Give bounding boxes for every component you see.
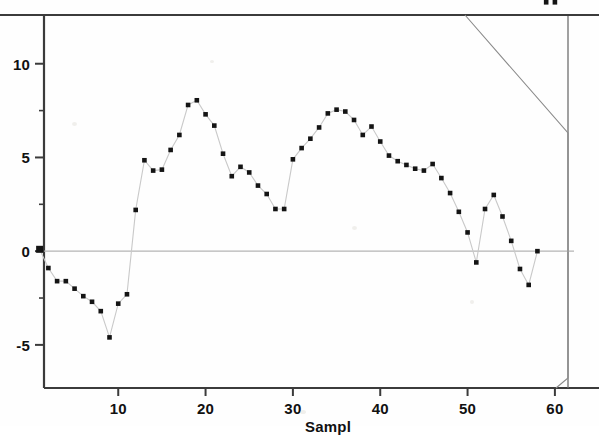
y-tick-label: -5: [0, 336, 30, 353]
y-tick-label: 10: [0, 55, 30, 72]
x-tick-label: 20: [197, 400, 214, 417]
x-tick-label: 30: [284, 400, 301, 417]
x-axis-title: Sampl: [305, 418, 351, 435]
x-tick-label: 60: [546, 400, 563, 417]
x-tick-label: 50: [459, 400, 476, 417]
series-connector-line: [40, 100, 538, 337]
x-tick-label: 10: [110, 400, 127, 417]
y-tick-label: 5: [0, 149, 30, 166]
y-tick-label: 0: [0, 243, 30, 260]
series-data-points: [36, 0, 557, 340]
axis-ticks: [35, 64, 555, 396]
axis-frame: [0, 15, 599, 388]
x-tick-label: 40: [372, 400, 389, 417]
page-fold-artifact-icon: [465, 15, 568, 388]
